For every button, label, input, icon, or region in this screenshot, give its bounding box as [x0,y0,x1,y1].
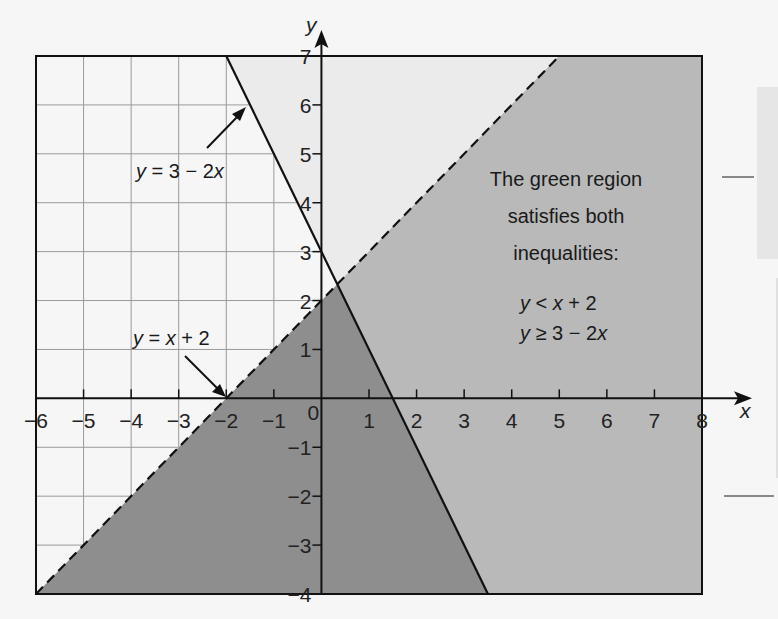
x-tick-label: 7 [649,409,661,432]
inequality-1: y < x + 2 [518,292,597,314]
line-label-3-minus-2x: y = 3 − 2x [134,160,225,182]
y-tick-label: −3 [287,534,311,557]
y-tick-label: −4 [287,583,311,606]
y-tick-label: 6 [300,94,312,117]
y-tick-label: 5 [300,143,312,166]
y-tick-label: 4 [300,192,312,215]
x-axis-label: x [739,399,752,422]
annotation-line-2: satisfies both [508,205,625,227]
x-tick-label: 1 [363,409,375,432]
inequality-2: y ≥ 3 − 2x [518,322,608,344]
x-tick-label: −4 [119,409,143,432]
x-tick-label: −3 [167,409,191,432]
x-tick-label: 4 [506,409,518,432]
x-tick-label: 2 [411,409,423,432]
x-tick-label: 0 [308,401,320,424]
x-tick-label: −5 [72,409,96,432]
arrow-to-line-2 [185,356,226,397]
annotation-line-3: inequalities: [513,242,619,264]
margin-panel [757,87,778,259]
inequality-graph: xy −6−5−4−3−2−1012345678−4−3−2−11234567 … [0,0,778,619]
x-tick-label: 3 [458,409,470,432]
margin-rule [724,495,774,497]
x-tick-label: −1 [262,409,286,432]
x-tick-label: 8 [696,409,708,432]
y-tick-label: 3 [300,241,312,264]
line-label-x-plus-2: y = x + 2 [131,327,210,349]
y-tick-label: −2 [287,485,311,508]
margin-rule [722,176,754,178]
y-tick-label: 2 [300,290,312,313]
y-axis-label: y [304,13,318,36]
x-tick-label: −2 [214,409,238,432]
x-tick-label: 5 [553,409,565,432]
y-tick-label: 7 [300,45,312,68]
annotation-line-1: The green region [490,168,642,190]
y-tick-label: −1 [287,436,311,459]
x-tick-label: 6 [601,409,613,432]
x-tick-label: −6 [24,409,48,432]
y-tick-label: 1 [300,338,312,361]
